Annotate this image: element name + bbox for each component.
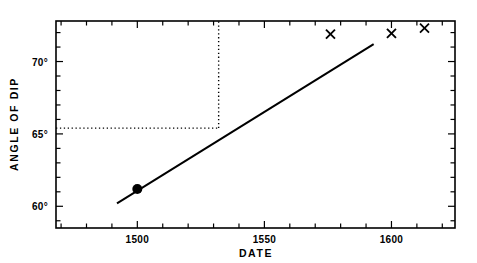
y-axis-tick-labels: 60°65°70° [32, 57, 48, 213]
plot-frame [56, 21, 455, 228]
chart-figure: 150015501600 60°65°70° DATE ANGLE OF DIP [0, 0, 477, 263]
y-axis-title: ANGLE OF DIP [8, 77, 20, 171]
y-tick-label: 60° [32, 201, 48, 212]
x-tick-label: 1600 [380, 234, 404, 245]
y-tick-label: 70° [32, 57, 48, 68]
y-tick-label: 65° [32, 129, 48, 140]
scatter-plot-svg: 150015501600 60°65°70° DATE ANGLE OF DIP [0, 0, 477, 263]
filled-circle-marker [132, 184, 142, 194]
x-tick-label: 1550 [253, 234, 277, 245]
x-axis-title: DATE [239, 247, 273, 259]
x-tick-label: 1500 [126, 234, 150, 245]
x-axis-tick-labels: 150015501600 [126, 234, 404, 245]
